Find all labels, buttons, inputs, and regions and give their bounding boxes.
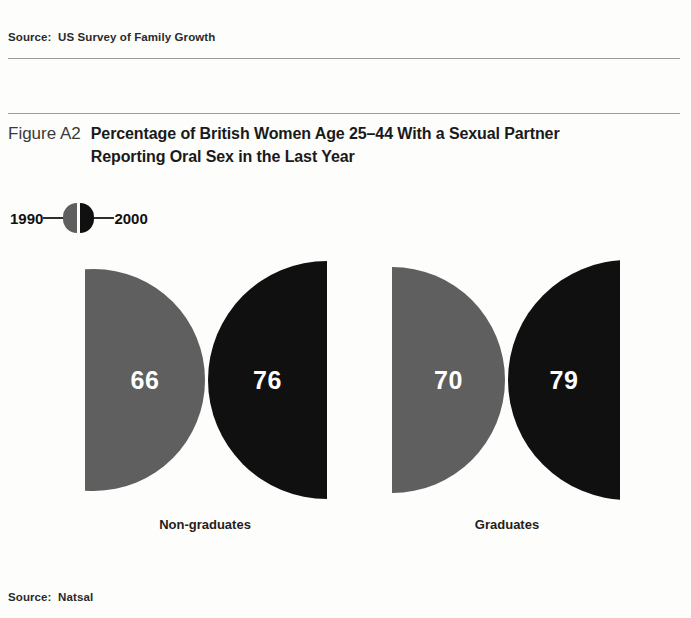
pie-half-2000[interactable]: 76 [208, 261, 327, 499]
legend-connector-right [94, 217, 114, 219]
pie-half-1990-disc [392, 267, 505, 493]
pie-half-1990[interactable]: 66 [85, 269, 205, 491]
pie-half-1990[interactable]: 70 [392, 267, 505, 493]
figure-number: Figure A2 [8, 122, 91, 145]
chart-legend: 1990 2000 [10, 203, 148, 233]
pie-half-2000-disc [508, 260, 620, 500]
pie-half-1990-disc [85, 269, 205, 491]
source-note-top: Source: US Survey of Family Growth [8, 31, 215, 43]
figure-title-line1: Percentage of British Women Age 25–44 Wi… [91, 125, 560, 142]
legend-split-circle-icon [63, 203, 94, 233]
figure-heading: Figure A2 Percentage of British Women Ag… [8, 122, 668, 168]
divider-rule-top [8, 58, 680, 59]
pie-group-graduates: 70 79 Graduates [387, 255, 627, 545]
pie-half-2000[interactable]: 79 [508, 260, 620, 500]
source-note-bottom: Source: Natsal [8, 591, 93, 603]
split-pie-chart: 66 76 [85, 255, 325, 505]
category-label-graduates: Graduates [387, 517, 627, 532]
legend-connector-left [43, 217, 63, 219]
pie-group-non-graduates: 66 76 Non-graduates [85, 255, 325, 545]
figure-title: Percentage of British Women Age 25–44 Wi… [91, 122, 560, 168]
legend-swatch-2000 [80, 203, 94, 233]
split-pie-chart: 70 79 [387, 255, 627, 505]
legend-swatch-1990 [63, 203, 77, 233]
chart-plot-area: 66 76 Non-graduates 70 79 [0, 255, 691, 545]
figure-page: Source: US Survey of Family Growth Figur… [0, 0, 691, 618]
pie-half-2000-disc [208, 261, 327, 499]
figure-title-line2: Reporting Oral Sex in the Last Year [91, 145, 560, 168]
category-label-non-graduates: Non-graduates [85, 517, 325, 532]
divider-rule-bottom [8, 113, 680, 114]
legend-label-1990: 1990 [10, 210, 43, 227]
legend-label-2000: 2000 [114, 210, 147, 227]
